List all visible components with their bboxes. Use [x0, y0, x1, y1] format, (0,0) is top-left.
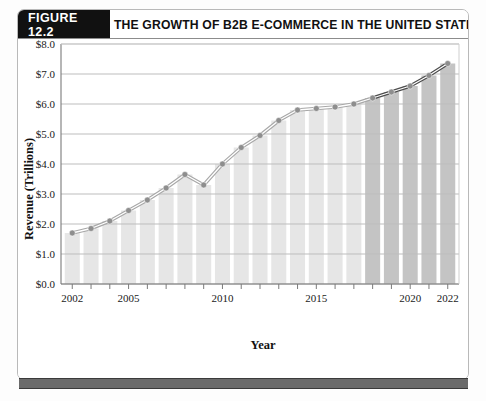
figure-number-tag: FIGURE 12.2 [18, 10, 110, 39]
data-point-marker [69, 230, 75, 236]
data-point-marker [107, 218, 113, 224]
x-tick-label-layer: 200220052010201520202022 [61, 292, 458, 304]
y-tick-label: $3.0 [36, 188, 56, 200]
chart-svg: $0.0$1.0$2.0$3.0$4.0$5.0$6.0$7.0$8.0 200… [18, 39, 469, 380]
x-axis-title: Year [251, 338, 276, 352]
figure-bottom-rule [19, 378, 468, 389]
y-tick-label-layer: $0.0$1.0$2.0$3.0$4.0$5.0$6.0$7.0$8.0 [36, 39, 56, 290]
chart-plot-area: $0.0$1.0$2.0$3.0$4.0$5.0$6.0$7.0$8.0 200… [18, 39, 469, 380]
data-point-marker [238, 145, 244, 151]
x-tick-label: 2002 [61, 292, 83, 304]
figure-header: FIGURE 12.2 THE GROWTH OF B2B E-COMMERCE… [18, 10, 468, 39]
y-axis-title: Revenue (Trillions) [22, 138, 36, 240]
bar-layer [65, 64, 456, 285]
data-point-marker [201, 182, 207, 188]
data-point-marker [219, 161, 225, 167]
data-point-marker [163, 185, 169, 191]
figure-frame: FIGURE 12.2 THE GROWTH OF B2B E-COMMERCE… [17, 9, 469, 380]
data-point-marker [182, 172, 188, 178]
data-point-marker [407, 83, 413, 89]
data-point-marker [257, 133, 263, 139]
data-point-marker [332, 104, 338, 110]
x-tick-label: 2010 [211, 292, 234, 304]
data-point-marker [144, 197, 150, 203]
data-point-marker [351, 101, 357, 107]
y-tick-label: $5.0 [36, 128, 56, 140]
x-tick-label: 2022 [437, 292, 459, 304]
y-tick-label: $8.0 [36, 39, 56, 50]
y-tick-label: $4.0 [36, 158, 56, 170]
data-point-marker [313, 106, 319, 112]
x-tick-label: 2015 [305, 292, 328, 304]
x-tick-label: 2020 [399, 292, 422, 304]
y-tick-label: $2.0 [36, 218, 56, 230]
data-point-marker [370, 95, 376, 101]
data-point-marker [388, 89, 394, 95]
x-tick-label: 2005 [118, 292, 141, 304]
y-tick-label: $6.0 [36, 98, 56, 110]
data-point-marker [276, 118, 282, 124]
y-tick-label: $1.0 [36, 248, 56, 260]
y-tick-label: $0.0 [36, 278, 56, 290]
data-point-marker [126, 208, 132, 214]
data-point-marker [295, 107, 301, 113]
data-point-marker [426, 73, 432, 79]
figure-root: FIGURE 12.2 THE GROWTH OF B2B E-COMMERCE… [0, 0, 486, 401]
figure-title: THE GROWTH OF B2B E-COMMERCE IN THE UNIT… [110, 10, 469, 39]
data-point-marker [445, 61, 451, 67]
y-tick-label: $7.0 [36, 68, 56, 80]
data-point-marker [88, 226, 94, 232]
